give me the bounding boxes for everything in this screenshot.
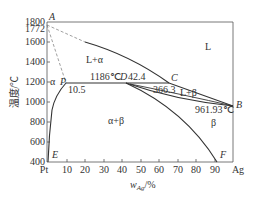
point-p-label: P: [59, 76, 66, 87]
x-ticks: [67, 159, 215, 162]
y-tick-1600: 1600: [25, 36, 45, 47]
x-tick-60: 60: [154, 164, 164, 175]
x-tick-30: 30: [99, 164, 109, 175]
point-e-label: E: [51, 149, 58, 160]
y-tick-1200: 1200: [25, 76, 45, 87]
y-tick-1400: 1400: [25, 56, 45, 67]
region-l-alpha: L+α: [86, 54, 104, 65]
region-alpha-beta: α+β: [108, 115, 124, 126]
x-tick-ag: Ag: [232, 164, 244, 175]
y-tick-600: 600: [30, 136, 45, 147]
region-l: L: [205, 41, 211, 52]
x-tick-80: 80: [191, 164, 201, 175]
x-tick-labels: Pt 10 20 30 40 50 60 70 80 90 Ag: [40, 164, 244, 175]
x-axis-title: wAg/%: [130, 179, 156, 192]
x-tick-90: 90: [210, 164, 220, 175]
x-tick-10: 10: [62, 164, 72, 175]
y-tick-800: 800: [30, 116, 45, 127]
phase-curves: [48, 42, 233, 162]
point-a-label: A: [48, 11, 56, 22]
x-tick-50: 50: [136, 164, 146, 175]
comp-42-4-label: 42.4: [128, 71, 146, 82]
x-tick-40: 40: [117, 164, 127, 175]
value-annotations: 1186℃ 10.5 42.4 366.3 961.93℃: [68, 71, 234, 115]
comp-66-3-label: 366.3: [153, 84, 176, 95]
region-beta: β: [211, 117, 216, 128]
comp-10-5-label: 10.5: [68, 84, 86, 95]
point-b-label: B: [236, 99, 242, 110]
x-tick-20: 20: [80, 164, 90, 175]
point-c-label: C: [171, 72, 178, 83]
region-l-beta: L+β: [180, 87, 197, 98]
point-f-label: F: [219, 149, 227, 160]
y-tick-1000: 1000: [25, 96, 45, 107]
y-tick-1772: 1772: [25, 23, 45, 34]
y-axis-title: 温度/℃: [8, 76, 20, 109]
x-tick-70: 70: [173, 164, 183, 175]
y-tick-labels: 1800 1772 1600 1400 1200 1000 800 600 40…: [25, 16, 45, 167]
temp-961-label: 961.93℃: [195, 104, 234, 115]
y-ticks: [47, 42, 50, 142]
temp-1186-label: 1186℃: [90, 71, 121, 82]
phase-diagram: 1800 1772 1600 1400 1200 1000 800 600 40…: [0, 0, 257, 197]
region-alpha: α: [50, 76, 56, 87]
x-tick-pt: Pt: [40, 164, 49, 175]
dashed-lines: [47, 25, 85, 83]
